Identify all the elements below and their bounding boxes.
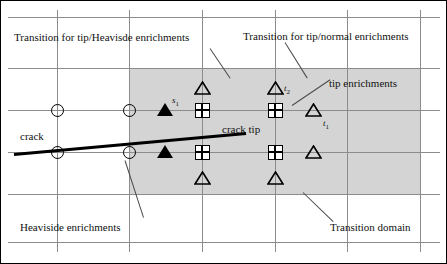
solid-triangle-node-icon [157, 145, 173, 158]
grid-line-horizontal-5 [8, 194, 440, 195]
square-cross-node-icon [195, 103, 210, 118]
node-square-r2-c3 [195, 145, 210, 160]
label-node-t2: t2 [284, 84, 290, 96]
label-heaviside-enrichments: Heaviside enrichments [20, 222, 121, 233]
label-node-t2-subscript: 2 [287, 88, 291, 96]
node-open-triangle-lower-c4 [267, 171, 284, 185]
node-open-triangle-upper-c3 [194, 81, 211, 95]
grid-line-horizontal-3 [8, 110, 440, 111]
square-cross-node-icon [195, 145, 210, 160]
open-triangle-node-icon [267, 81, 284, 95]
open-triangle-node-icon [305, 145, 322, 159]
open-triangle-node-icon [194, 171, 211, 185]
node-solid-triangle-s1 [157, 103, 173, 116]
label-transition-tip-heaviside: Transition for tip/Heavisde enrichments [14, 32, 189, 43]
grid-line-vertical-2 [129, 10, 130, 252]
label-node-s1-subscript: 1 [176, 100, 180, 108]
node-open-triangle-r2 [305, 145, 322, 159]
label-transition-tip-normal: Transition for tip/normal enrichments [243, 31, 409, 42]
node-square-r2-c4 [268, 145, 283, 160]
node-circle-r1-c2 [123, 104, 136, 117]
circle-node-icon [123, 104, 136, 117]
circle-node-icon [51, 104, 64, 117]
label-transition-domain: Transition domain [330, 222, 411, 233]
open-triangle-node-icon [305, 103, 322, 117]
open-triangle-node-icon [267, 171, 284, 185]
node-open-triangle-t2 [267, 81, 284, 95]
grid-line-horizontal-6 [8, 242, 440, 243]
label-crack-tip: crack tip [222, 124, 260, 135]
figure-canvas: Transition for tip/Heavisde enrichments … [0, 0, 447, 264]
node-circle-r2-c2 [123, 146, 136, 159]
node-circle-r1-c1 [51, 104, 64, 117]
grid-line-vertical-6 [420, 10, 421, 252]
grid-line-vertical-3 [202, 10, 203, 252]
node-open-triangle-t1 [305, 103, 322, 117]
label-tip-enrichments: tip enrichments [329, 78, 397, 89]
label-node-s1: s1 [172, 96, 179, 108]
label-node-t1: t1 [323, 119, 329, 131]
grid-line-horizontal-1 [8, 17, 440, 18]
circle-node-icon [123, 146, 136, 159]
grid-line-horizontal-4 [8, 152, 440, 153]
node-square-r1-c3 [195, 103, 210, 118]
node-open-triangle-lower-c3 [194, 171, 211, 185]
solid-triangle-node-icon [157, 103, 173, 116]
node-square-r1-c4 [268, 103, 283, 118]
grid-line-vertical-1 [57, 10, 58, 252]
grid-line-vertical-5 [347, 10, 348, 252]
node-circle-r2-c1 [51, 146, 64, 159]
grid-line-vertical-4 [275, 10, 276, 252]
square-cross-node-icon [268, 103, 283, 118]
square-cross-node-icon [268, 145, 283, 160]
circle-node-icon [51, 146, 64, 159]
open-triangle-node-icon [194, 81, 211, 95]
label-crack: crack [20, 131, 44, 142]
label-node-t1-subscript: 1 [326, 123, 330, 131]
node-solid-triangle-r2 [157, 145, 173, 158]
